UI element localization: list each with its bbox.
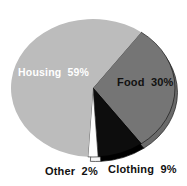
pie-chart-svg — [0, 0, 187, 186]
slice-label-clothing: Clothing 9% — [108, 163, 177, 175]
slice-label-other: Other 2% — [45, 165, 98, 177]
slice-label-food: Food 30% — [117, 76, 174, 88]
slice-label-housing: Housing 59% — [18, 66, 89, 78]
pie-chart-figure: Housing 59% Food 30% Other 2% Clothing 9… — [0, 0, 187, 186]
